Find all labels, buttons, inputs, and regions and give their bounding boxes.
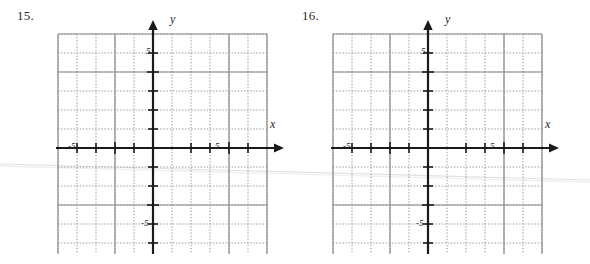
grid-horizontal-lines bbox=[58, 34, 267, 254]
y-tick-label-negative-5-16: -5 bbox=[416, 218, 424, 228]
x-tick-label-positive-5-15: 5 bbox=[215, 141, 220, 151]
y-tick-label-positive-5-16: 5 bbox=[421, 46, 426, 56]
grid-svg-15 bbox=[46, 14, 286, 254]
grid-svg-16 bbox=[321, 14, 561, 254]
x-axis-16 bbox=[331, 142, 559, 154]
grid-vertical-lines bbox=[333, 34, 542, 254]
x-tick-label-negative-5-16: -5 bbox=[343, 141, 351, 151]
y-axis-label-15: y bbox=[170, 12, 175, 27]
grid-vertical-lines bbox=[58, 34, 267, 254]
x-axis-label-16: x bbox=[545, 117, 550, 132]
grid-horizontal-lines bbox=[333, 34, 542, 254]
x-tick-label-positive-5-16: 5 bbox=[490, 141, 495, 151]
x-axis-15 bbox=[56, 142, 284, 154]
worksheet-page: 15. bbox=[0, 0, 590, 264]
y-axis-label-16: y bbox=[445, 12, 450, 27]
y-tick-label-negative-5-15: -5 bbox=[141, 218, 149, 228]
x-tick-label-negative-5-15: -5 bbox=[68, 141, 76, 151]
grid-major-lines bbox=[58, 34, 267, 254]
y-tick-label-positive-5-15: 5 bbox=[146, 46, 151, 56]
problem-16: 16. bbox=[275, 0, 590, 264]
problem-15: 15. bbox=[0, 0, 295, 264]
problem-number-15: 15. bbox=[17, 8, 34, 24]
coordinate-grid-15 bbox=[46, 14, 286, 254]
problem-number-16: 16. bbox=[302, 8, 319, 24]
coordinate-grid-16 bbox=[321, 14, 561, 254]
grid-major-lines bbox=[333, 34, 542, 254]
